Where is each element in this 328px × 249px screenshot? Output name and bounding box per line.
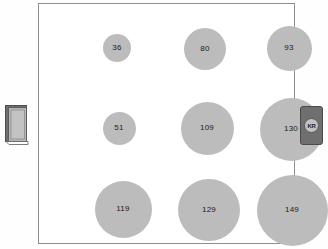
- bubble-point[interactable]: 109: [181, 102, 234, 155]
- bubble-value-label: 119: [116, 205, 129, 213]
- kr-badge-label: KR: [307, 123, 315, 129]
- bubble-value-label: 93: [284, 44, 293, 52]
- bubble-point[interactable]: 80: [184, 28, 226, 70]
- bubble-point[interactable]: 149: [257, 175, 328, 246]
- kr-disc-icon: KR: [304, 118, 319, 133]
- bubble-value-label: 130: [284, 125, 298, 133]
- bubble-point[interactable]: 119: [95, 181, 152, 238]
- bubble-value-label: 51: [114, 124, 123, 132]
- bubble-point[interactable]: 51: [103, 112, 136, 145]
- bubble-value-label: 149: [285, 206, 299, 214]
- bubble-value-label: 80: [200, 45, 209, 53]
- kr-badge[interactable]: KR: [300, 106, 323, 145]
- book-icon-glyph: [4, 104, 30, 147]
- book-icon[interactable]: [4, 104, 30, 147]
- plot-frame: 36809351109130119129149: [38, 3, 295, 244]
- bubble-point[interactable]: 36: [103, 34, 131, 62]
- bubble-grid: 36809351109130119129149: [39, 4, 294, 243]
- bubble-point[interactable]: 129: [178, 179, 240, 241]
- bubble-point[interactable]: 93: [267, 26, 312, 71]
- bubble-value-label: 36: [112, 44, 121, 52]
- bubble-value-label: 109: [200, 124, 214, 132]
- bubble-value-label: 129: [202, 206, 216, 214]
